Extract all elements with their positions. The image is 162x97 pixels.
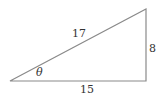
opposite-side-label: 8 (149, 42, 156, 55)
triangle-diagram: 17 8 15 θ (0, 0, 162, 97)
right-triangle (10, 9, 146, 81)
hypotenuse-label: 17 (72, 27, 86, 40)
angle-theta-label: θ (36, 66, 43, 79)
adjacent-side-label: 15 (80, 83, 94, 96)
